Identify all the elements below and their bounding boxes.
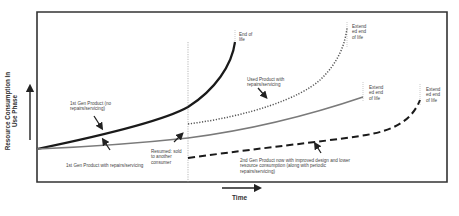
label-first-gen-no-repair: 1st Gen Product (no repairs/servicing) [70, 101, 111, 112]
label-second-gen: 2nd Gen Product now with improved design… [240, 158, 350, 174]
label-extended-end-2: Extend ed end of life [369, 85, 383, 101]
label-resumed: Resumed: sold to another consumer [151, 149, 182, 165]
y-axis-label: Resource Consumption In Use Phase [4, 66, 18, 156]
diagram-canvas [0, 0, 459, 216]
second-gen-curve [188, 100, 420, 158]
label-extended-end-1: Extend ed end of life [352, 24, 366, 40]
arrow-used-product [258, 88, 265, 96]
arrow-first-gen-no-repair [94, 116, 101, 127]
label-end-of-life: End of life [239, 32, 252, 43]
x-axis-label: Time [232, 194, 247, 201]
label-first-gen-repair: 1st Gen Product with repairs/servicing [66, 163, 143, 168]
label-used-product: Used Product with repairs/servicing [247, 77, 284, 88]
first-gen-no-repair-curve [37, 42, 235, 149]
arrow-second-gen [316, 145, 321, 153]
label-extended-end-3: Extend ed end of life [426, 87, 440, 103]
